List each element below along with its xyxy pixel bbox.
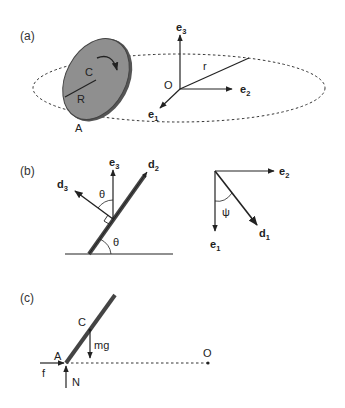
panel-b-label: (b) [20, 164, 35, 178]
psi-label: ψ [222, 206, 230, 218]
contact-point-label: A [75, 122, 83, 134]
panel-c-label: (c) [20, 291, 34, 305]
rolling-disk-figure: (a) C R A O r e3 e2 e1 (b) [0, 0, 345, 408]
e3-label: e3 [176, 21, 186, 36]
d3-label: d3 [57, 178, 68, 193]
mg-label: mg [94, 339, 109, 351]
panel-c: (c) C mg A f N O [20, 291, 212, 388]
e2-label: e2 [240, 83, 250, 98]
b-e3-label: e3 [109, 156, 119, 171]
panel-b: (b) θ θ e3 d2 d3 ψ e2 e1 d1 [20, 156, 289, 254]
origin-label: O [164, 79, 173, 91]
d2-label: d2 [148, 158, 159, 173]
panel-a: (a) C R A O r e3 e2 e1 [20, 21, 325, 134]
b-e1-label: e1 [210, 238, 220, 253]
e1-label: e1 [148, 108, 158, 123]
c-center-label: C [78, 316, 86, 328]
origin-point [206, 361, 209, 364]
disk-center-label: C [85, 66, 93, 78]
panel-a-label: (a) [20, 29, 35, 43]
c-origin-label: O [203, 347, 212, 359]
friction-label: f [42, 367, 46, 379]
theta-bottom-label: θ [113, 236, 119, 248]
disk-radius-label: R [77, 93, 85, 105]
theta-arc-top [98, 200, 113, 208]
theta-arc-bottom [100, 239, 111, 254]
radius-r-line [180, 58, 249, 89]
theta-top-label: θ [99, 188, 105, 200]
normal-label: N [72, 376, 80, 388]
path-radius-label: r [203, 60, 207, 72]
psi-arc [215, 193, 232, 201]
c-contact-label: A [54, 350, 62, 362]
d3-arrow [75, 191, 113, 219]
d1-label: d1 [259, 227, 270, 242]
e1-axis-arrow [160, 89, 180, 108]
disk [49, 27, 146, 134]
b-e2-label: e2 [279, 165, 289, 180]
